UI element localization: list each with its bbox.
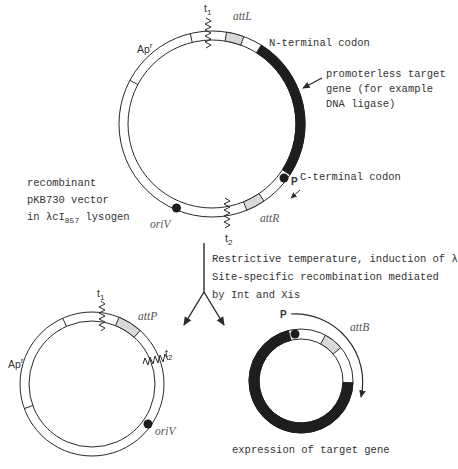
attP-plasmid-inner-ring <box>29 321 155 447</box>
top-plasmid-caption: recombinant pKB730 vector in λcI857 lyso… <box>27 175 130 229</box>
apr-boundary-top <box>63 318 67 326</box>
attP-plasmid <box>20 301 168 456</box>
attP-site <box>116 317 141 337</box>
oriV-label: oriV <box>155 425 175 437</box>
attB-label: attB <box>350 321 369 333</box>
expression-caption: expression of target gene <box>232 444 390 456</box>
attP-plasmid-outer-ring <box>20 312 164 456</box>
t1-terminator <box>205 18 211 48</box>
transition-description: Restrictive temperature, induction of λ … <box>212 250 458 304</box>
attR-site <box>244 194 265 211</box>
t2-label: t2 <box>165 347 172 364</box>
apr-boundary-top <box>190 34 192 43</box>
t1-terminator <box>99 301 105 331</box>
attL-label: attL <box>233 10 252 22</box>
promoter-direction-arrow <box>291 190 300 198</box>
gene-note: promoterless target gene (for example DN… <box>326 67 446 112</box>
t2-terminator <box>224 198 230 228</box>
apr-label: Apr <box>137 40 153 55</box>
apr-boundary-bottom <box>24 406 33 409</box>
t1-label: t1 <box>204 2 211 19</box>
attR-label: attR <box>260 212 279 224</box>
attB-plasmid <box>249 314 363 433</box>
apr-boundary-left <box>130 80 138 84</box>
attL-site <box>225 32 244 45</box>
top-plasmid-inner-ring <box>128 40 296 208</box>
t2-label: t2 <box>225 232 233 249</box>
promoter-dot <box>280 174 289 183</box>
oriV-dot <box>172 204 181 213</box>
apr-label: Apr <box>8 355 24 370</box>
target-gene-segment <box>257 45 306 175</box>
t1-label: t1 <box>97 287 104 304</box>
attB-site <box>321 335 341 354</box>
promoter-label: P <box>280 309 287 321</box>
gene-pointer-arrow <box>303 78 322 88</box>
promoter-label: P <box>291 176 298 188</box>
promoter-dot <box>291 330 300 339</box>
n-terminal-codon-label: N-terminal codon <box>269 37 370 49</box>
oriV-label: oriV <box>150 218 170 230</box>
attP-label: attP <box>138 310 157 322</box>
oriV-dot <box>144 420 153 429</box>
c-terminal-codon-label: C-terminal codon <box>300 171 401 183</box>
